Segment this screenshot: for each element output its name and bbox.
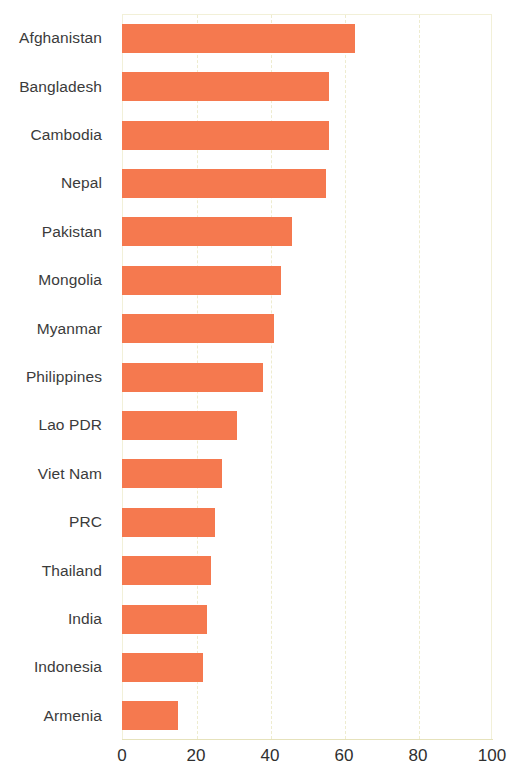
y-axis-label-armenia: Armenia [44,706,102,726]
bar-prc[interactable] [122,508,215,537]
y-axis-label-mongolia: Mongolia [38,270,102,290]
y-axis-labels: AfghanistanBangladeshCambodiaNepalPakist… [0,14,112,740]
y-axis-label-indonesia: Indonesia [34,657,102,677]
bar-bangladesh[interactable] [122,72,329,101]
bar-viet-nam[interactable] [122,459,222,488]
bar-armenia[interactable] [122,701,178,730]
y-axis-label-lao-pdr: Lao PDR [38,415,102,435]
bar-indonesia[interactable] [122,653,203,682]
bar-row [122,605,492,634]
bar-cambodia[interactable] [122,121,329,150]
bar-nepal[interactable] [122,169,326,198]
bar-thailand[interactable] [122,556,211,585]
bar-row [122,217,492,246]
bar-row [122,72,492,101]
y-axis-label-viet-nam: Viet Nam [38,464,102,484]
bar-chart: AfghanistanBangladeshCambodiaNepalPakist… [0,0,509,774]
bar-india[interactable] [122,605,207,634]
bar-row [122,266,492,295]
y-axis-label-myanmar: Myanmar [37,319,102,339]
bar-row [122,556,492,585]
bar-pakistan[interactable] [122,217,292,246]
y-axis-label-philippines: Philippines [26,367,102,387]
bar-row [122,508,492,537]
y-axis-label-bangladesh: Bangladesh [19,77,102,97]
bar-row [122,121,492,150]
y-axis-label-pakistan: Pakistan [42,222,102,242]
y-axis-label-afghanistan: Afghanistan [19,28,102,48]
x-tick-100: 100 [478,746,506,766]
bar-row [122,701,492,730]
bar-row [122,653,492,682]
bar-philippines[interactable] [122,363,263,392]
bar-row [122,363,492,392]
bar-lao-pdr[interactable] [122,411,237,440]
bar-mongolia[interactable] [122,266,281,295]
x-tick-0: 0 [117,746,126,766]
bar-row [122,169,492,198]
y-axis-label-cambodia: Cambodia [31,125,102,145]
bar-myanmar[interactable] [122,314,274,343]
bar-row [122,411,492,440]
bar-afghanistan[interactable] [122,24,355,53]
y-axis-label-thailand: Thailand [42,561,102,581]
x-tick-80: 80 [409,746,428,766]
bar-row [122,459,492,488]
y-axis-label-prc: PRC [69,512,102,532]
y-axis-label-nepal: Nepal [61,173,102,193]
bars-container [122,14,492,740]
y-axis-label-india: India [68,609,102,629]
x-tick-40: 40 [261,746,280,766]
x-axis-tick-labels: 020406080100 [0,746,509,774]
bar-row [122,24,492,53]
x-tick-60: 60 [335,746,354,766]
bar-row [122,314,492,343]
x-tick-20: 20 [187,746,206,766]
